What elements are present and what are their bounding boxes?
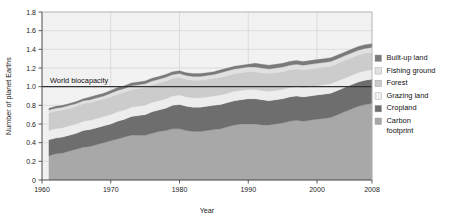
legend-label: Grazing land (387, 91, 429, 100)
legend-swatch (375, 55, 382, 62)
legend-label: Forest (387, 78, 408, 87)
y-tick-label: 0.4 (26, 139, 36, 146)
x-tick-label: 1990 (240, 186, 256, 193)
x-axis-ticks: 196019701980199020002008 (34, 180, 380, 193)
legend-swatch (375, 93, 382, 100)
legend: Built-up landFishing groundForestGrazing… (375, 53, 435, 135)
x-tick-label: 1960 (34, 186, 50, 193)
y-tick-label: 1.6 (26, 27, 36, 34)
legend-label: Built-up land (387, 53, 428, 62)
x-tick-label: 2008 (364, 186, 380, 193)
legend-item[interactable]: Fishing ground (375, 66, 435, 75)
y-tick-label: 1.4 (26, 46, 36, 53)
chart-canvas: 00.20.40.60.81.01.21.41.61.8 19601970198… (0, 0, 456, 222)
x-axis-title: Year (200, 206, 215, 215)
legend-item[interactable]: Carbonfootprint (375, 116, 413, 135)
legend-swatch (375, 105, 382, 112)
x-tick-label: 2000 (309, 186, 325, 193)
figure-root: 00.20.40.60.81.01.21.41.61.8 19601970198… (0, 0, 456, 222)
y-tick-label: 0.8 (26, 102, 36, 109)
x-tick-label: 1970 (103, 186, 119, 193)
y-tick-label: 0 (32, 177, 36, 184)
x-tick-label: 1980 (172, 186, 188, 193)
world-biocapacity-label: World biocapacity (50, 76, 108, 85)
y-tick-label: 1.2 (26, 65, 36, 72)
y-tick-label: 0.6 (26, 121, 36, 128)
y-axis-title: Number of planet Earths (4, 57, 13, 135)
y-tick-label: 1.0 (26, 83, 36, 90)
legend-swatch (375, 68, 382, 75)
legend-swatch (375, 118, 382, 125)
legend-item[interactable]: Forest (375, 78, 407, 87)
y-axis-ticks: 00.20.40.60.81.01.21.41.61.8 (26, 9, 42, 184)
y-tick-label: 1.8 (26, 9, 36, 16)
y-tick-label: 0.2 (26, 158, 36, 165)
legend-item[interactable]: Grazing land (375, 91, 428, 100)
legend-label: Fishing ground (387, 66, 436, 75)
legend-label-line2: footprint (387, 126, 414, 135)
legend-swatch (375, 80, 382, 87)
legend-item[interactable]: Built-up land (375, 53, 428, 62)
legend-label: Cropland (387, 103, 417, 112)
legend-item[interactable]: Cropland (375, 103, 417, 112)
legend-label: Carbon (387, 116, 411, 125)
